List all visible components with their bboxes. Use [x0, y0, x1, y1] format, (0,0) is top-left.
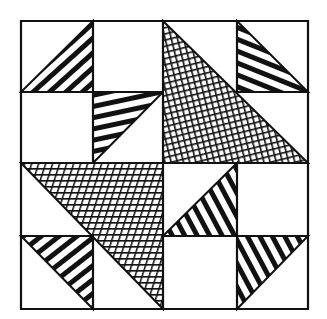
striped-triangle-top-left — [21, 21, 93, 92]
striped-triangle-center-right — [163, 163, 237, 236]
striped-triangle-center-left — [93, 92, 163, 163]
striped-triangle-bottom-left — [21, 236, 93, 309]
striped-triangle-bottom-right — [237, 236, 308, 309]
quilt-block-drawing: Quilt block line drawing — [0, 0, 327, 319]
quilt-block-svg — [0, 0, 327, 319]
striped-triangle-top-right — [237, 21, 308, 92]
